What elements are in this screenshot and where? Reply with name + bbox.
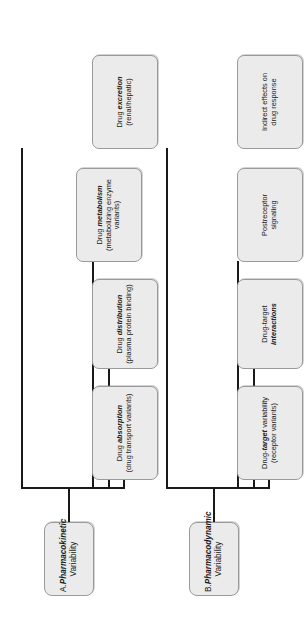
a1-emphasis: distribution [115, 295, 124, 336]
pharmacodynamic-group: B.Pharmacodynamic Variability Drug-targe… [145, 0, 291, 618]
trunk-line-a [68, 488, 70, 522]
parent-b-rest: Variability [214, 542, 223, 577]
pharmacokinetic-group: A.Pharmacokinetic Variability Drug absor… [0, 0, 145, 618]
parent-a-rest: Variability [69, 542, 78, 577]
a1-sub: (plasma protein binding) [125, 283, 134, 365]
b2-lead: Postreceptor [260, 194, 269, 236]
b0-tail: variability [260, 397, 269, 430]
a2-lead: Drug [95, 227, 104, 245]
b0-lead: Drug- [260, 450, 269, 468]
node-drug-target-interactions[interactable]: Drug-target interactions [237, 279, 291, 369]
node-postreceptor-signaling[interactable]: Postreceptor signaling [237, 168, 291, 262]
node-drug-metabolism[interactable]: Drug metabolism (metabolizing enzyme var… [76, 168, 142, 262]
trunk-line-b [213, 488, 215, 522]
a3-emphasis: excretion [115, 77, 124, 110]
b1-emphasis: interactions [269, 303, 278, 345]
parent-node-pharmacokinetic[interactable]: A.Pharmacokinetic Variability [44, 522, 94, 596]
a3-lead: Drug [115, 109, 124, 127]
parent-node-pharmacodynamic[interactable]: B.Pharmacodynamic Variability [189, 522, 239, 596]
connector-stub-a-0 [123, 479, 125, 489]
node-indirect-effects[interactable]: Indirect effects on drug response [237, 55, 291, 149]
parent-a-emphasis: Pharmacokinetic [59, 519, 68, 585]
b0-sub: (receptor variants) [270, 390, 279, 476]
a1-lead: Drug [115, 335, 124, 353]
b2-sub: signaling [270, 172, 279, 258]
b3-sub: drug response [270, 59, 279, 145]
connector-stub-b-3 [166, 148, 168, 489]
a0-emphasis: absorption [115, 405, 124, 443]
b3-lead: Indirect effects on [260, 73, 269, 131]
parent-b-emphasis: Pharmacodynamic [204, 511, 213, 584]
parent-a-prefix: A. [59, 584, 68, 592]
b0-emphasis: target [260, 430, 269, 451]
a2-sub: (metabolizing enzyme variants) [105, 172, 123, 258]
diagram-canvas: A.Pharmacokinetic Variability Drug absor… [0, 0, 291, 618]
a0-lead: Drug [115, 443, 124, 461]
node-drug-target-variability[interactable]: Drug-target variability (receptor varian… [237, 386, 291, 480]
a2-emphasis: metabolism [95, 185, 104, 226]
parent-b-prefix: B. [204, 584, 213, 592]
connector-stub-a-3 [21, 148, 23, 489]
connector-stub-b-0 [268, 479, 270, 489]
a0-sub: (drug transport variants) [125, 390, 134, 476]
b1-lead: Drug-target [260, 305, 269, 342]
a3-sub: (renal/hepatic) [125, 59, 134, 145]
